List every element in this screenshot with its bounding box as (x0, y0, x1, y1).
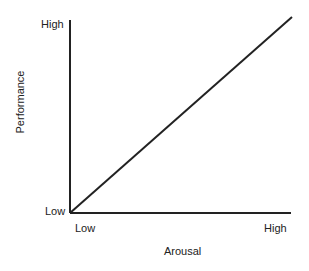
x-axis-label: Arousal (164, 245, 201, 257)
performance-line (70, 17, 292, 213)
y-tick-low: Low (45, 205, 65, 217)
y-axis-label: Performance (14, 71, 26, 134)
x-tick-low: Low (75, 222, 95, 234)
chart-canvas (0, 0, 309, 271)
y-tick-high: High (41, 18, 64, 30)
x-tick-high: High (264, 222, 287, 234)
